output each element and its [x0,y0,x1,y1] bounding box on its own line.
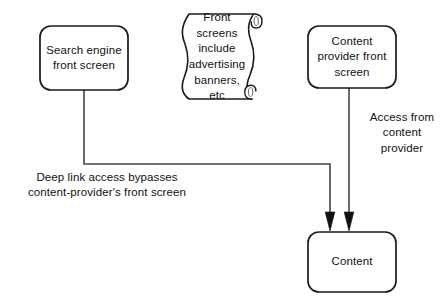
node-content[interactable] [308,232,396,292]
diagram-canvas: Search engine front screen Front screens… [0,0,445,306]
deep-link-arrowhead-icon [325,212,335,231]
deep-link-edge-label: Deep link access bypasses content-provid… [16,170,198,201]
scroll-curl-bottom-inner-icon [249,88,253,97]
edge-deep-link-access [84,90,335,231]
content-provider-arrowhead-icon [344,212,354,231]
node-search-engine-front-screen[interactable] [40,26,128,90]
edge-access-from-content-provider [344,88,354,231]
access-from-content-provider-edge-label: Access from content provider [362,110,442,156]
scroll-curl-top-inner-icon [254,16,258,25]
front-screens-note-label: Front screens include advertising banner… [186,14,248,100]
node-content-provider-front-screen[interactable] [308,26,396,88]
